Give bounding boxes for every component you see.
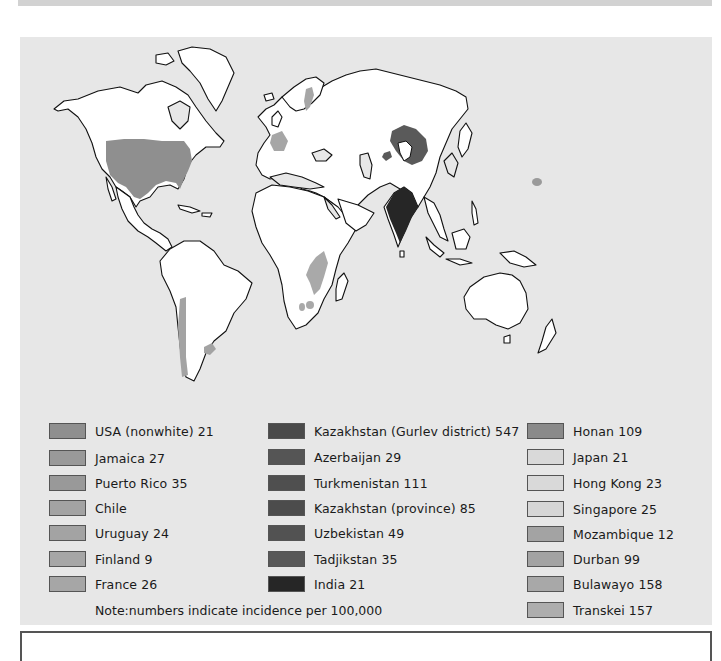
south-america <box>160 241 252 381</box>
legend-swatch <box>527 526 564 542</box>
legend-label: India 21 <box>314 577 365 592</box>
caption-box <box>20 631 712 661</box>
legend-label: Finland 9 <box>95 552 153 567</box>
legend-item: Turkmenistan 111 <box>268 474 428 492</box>
legend-item: Puerto Rico 35 <box>49 474 188 492</box>
legend-label: Kazakhstan (Gurlev district) 547 <box>314 424 519 439</box>
legend-label: Transkei 157 <box>573 603 653 618</box>
legend-item: Azerbaijan 29 <box>268 448 401 466</box>
legend-swatch <box>527 449 564 465</box>
legend-swatch <box>268 475 305 491</box>
legend-item: Japan 21 <box>527 448 629 466</box>
new-zealand <box>538 319 556 353</box>
legend-item: Kazakhstan (province) 85 <box>268 499 476 517</box>
legend-label: USA (nonwhite) 21 <box>95 424 214 439</box>
borneo <box>452 229 470 249</box>
legend-item: Uzbekistan 49 <box>268 524 404 542</box>
legend-label: Jamaica 27 <box>95 451 165 466</box>
se-asia <box>424 197 448 241</box>
legend-swatch <box>268 500 305 516</box>
legend-swatch <box>49 551 86 567</box>
legend-item: France 26 <box>49 575 157 593</box>
legend-label: Azerbaijan 29 <box>314 450 401 465</box>
legend-item: USA (nonwhite) 21 <box>49 422 214 440</box>
philippines <box>472 201 478 225</box>
legend-label: Singapore 25 <box>573 502 657 517</box>
legend-swatch <box>527 602 564 618</box>
legend-item: Kazakhstan (Gurlev district) 547 <box>268 422 519 440</box>
legend-label: Durban 99 <box>573 552 640 567</box>
australia <box>464 273 528 329</box>
new-guinea <box>500 251 536 267</box>
legend-item: India 21 <box>268 575 365 593</box>
legend-item: Mozambique 12 <box>527 525 674 543</box>
madagascar <box>336 273 348 301</box>
legend-item: Tadjikstan 35 <box>268 550 398 568</box>
legend-label: Uruguay 24 <box>95 526 169 541</box>
legend-label: Japan 21 <box>573 450 629 465</box>
legend-swatch <box>527 423 564 439</box>
legend-swatch <box>527 501 564 517</box>
legend-swatch <box>268 423 305 439</box>
legend-item: Honan 109 <box>527 422 642 440</box>
legend-swatch <box>268 551 305 567</box>
legend-label: Honan 109 <box>573 424 642 439</box>
legend-swatch <box>527 576 564 592</box>
map-panel: USA (nonwhite) 21 Jamaica 27 Puerto Rico… <box>20 37 712 625</box>
legend-item: Bulawayo 158 <box>527 575 663 593</box>
legend-label: Turkmenistan 111 <box>314 476 428 491</box>
legend-swatch <box>49 576 86 592</box>
legend-swatch <box>49 450 86 466</box>
legend-swatch <box>49 475 86 491</box>
legend-item: Uruguay 24 <box>49 524 169 542</box>
legend-swatch <box>527 551 564 567</box>
legend-swatch <box>268 525 305 541</box>
legend-item: Chile <box>49 499 127 517</box>
legend-swatch <box>49 525 86 541</box>
legend-label: Puerto Rico 35 <box>95 476 188 491</box>
legend-label: Hong Kong 23 <box>573 476 662 491</box>
sumatra <box>426 237 444 257</box>
japan <box>458 123 472 157</box>
region-durban <box>306 301 314 309</box>
legend-label: Uzbekistan 49 <box>314 526 404 541</box>
legend-item: Hong Kong 23 <box>527 474 662 492</box>
region-honan <box>532 178 542 186</box>
top-strip <box>18 0 712 6</box>
legend-label: Mozambique 12 <box>573 527 674 542</box>
legend-label: Kazakhstan (province) 85 <box>314 501 476 516</box>
legend-label: Bulawayo 158 <box>573 577 663 592</box>
world-map <box>20 37 712 437</box>
legend-item: Transkei 157 <box>527 601 653 619</box>
legend-item: Durban 99 <box>527 550 640 568</box>
legend-label: Tadjikstan 35 <box>314 552 398 567</box>
legend-swatch <box>49 500 86 516</box>
legend-label: France 26 <box>95 577 157 592</box>
legend-swatch <box>49 423 86 439</box>
legend-item: Singapore 25 <box>527 500 657 518</box>
legend-label: Chile <box>95 501 127 516</box>
legend-item: Finland 9 <box>49 550 153 568</box>
legend-swatch <box>527 475 564 491</box>
legend-item: Jamaica 27 <box>49 449 165 467</box>
legend-swatch <box>268 576 305 592</box>
region-transkei <box>299 303 305 311</box>
legend-swatch <box>268 449 305 465</box>
legend-note: Note:numbers indicate incidence per 100,… <box>95 603 382 618</box>
